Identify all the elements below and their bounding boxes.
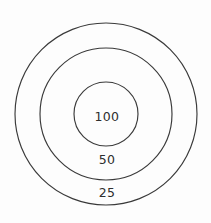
- ring-label-25: 25: [99, 185, 116, 200]
- target-diagram: 100 50 25: [0, 0, 211, 223]
- ring-label-100: 100: [95, 109, 120, 124]
- ring-label-50: 50: [99, 152, 116, 167]
- concentric-circles-chart: 100 50 25: [0, 0, 211, 223]
